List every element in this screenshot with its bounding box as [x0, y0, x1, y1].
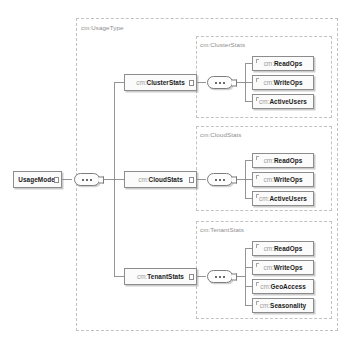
compositor-dot: [219, 179, 221, 181]
element-name-seasonality: Seasonality: [270, 302, 306, 309]
group-label-usage-type: cm:UsageType: [81, 24, 123, 31]
group-label-cloud-stats: cm:CloudStats: [200, 131, 242, 138]
compositor-dot: [223, 276, 225, 278]
element-node-cluster-stats[interactable]: cm: ClusterStats: [124, 74, 197, 91]
element-name-read-ops: ReadOps: [274, 245, 302, 252]
element-node-cluster-write-ops[interactable]: cm: WriteOps: [252, 75, 314, 90]
sequence-compositor-icon-cloud-stats[interactable]: [207, 173, 233, 186]
element-node-cluster-read-ops[interactable]: cm: ReadOps: [252, 56, 314, 71]
expand-tab-cloud-stats[interactable]: [189, 177, 194, 183]
namespace-prefix: cm:: [264, 264, 274, 271]
namespace-prefix: cm:: [259, 195, 269, 202]
compositor-dot: [90, 179, 92, 181]
group-label-cluster-stats: cm:ClusterStats: [200, 41, 245, 48]
element-node-tenant-geo-access[interactable]: cm: GeoAccess: [252, 279, 314, 294]
element-name-write-ops: WriteOps: [274, 264, 303, 271]
sequence-compositor-icon-tenant-stats[interactable]: [207, 270, 233, 283]
compositor-dot: [215, 276, 217, 278]
occurrence-indicator-icon: [256, 282, 259, 286]
element-node-cloud-write-ops[interactable]: cm: WriteOps: [252, 172, 314, 187]
element-name-tenant-stats: TenantStats: [147, 273, 184, 280]
compositor-dot: [219, 276, 221, 278]
element-node-cluster-active-users[interactable]: cm: ActiveUsers: [252, 94, 314, 109]
expand-tab-usage-model[interactable]: [54, 177, 59, 183]
namespace-prefix: cm:: [264, 157, 274, 164]
occurrence-indicator-icon: [256, 244, 259, 248]
element-node-cloud-stats[interactable]: cm: CloudStats: [124, 171, 197, 188]
element-name-geo-access: GeoAccess: [271, 283, 306, 290]
compositor-dot: [223, 179, 225, 181]
occurrence-indicator-icon: [256, 156, 259, 160]
occurrence-indicator-icon: [256, 301, 259, 305]
sequence-compositor-icon-root[interactable]: [74, 173, 100, 186]
element-name-write-ops: WriteOps: [274, 176, 303, 183]
namespace-prefix: cm:: [137, 273, 147, 280]
compositor-connector-tab: [232, 273, 237, 280]
namespace-prefix: cm:: [264, 245, 274, 252]
element-name-write-ops: WriteOps: [274, 79, 303, 86]
namespace-prefix: cm:: [264, 176, 274, 183]
element-name-read-ops: ReadOps: [274, 157, 302, 164]
compositor-connector-tab: [232, 79, 237, 86]
namespace-prefix: cm:: [260, 283, 270, 290]
element-node-cloud-active-users[interactable]: cm: ActiveUsers: [252, 191, 314, 206]
element-node-cloud-read-ops[interactable]: cm: ReadOps: [252, 153, 314, 168]
group-label-tenant-stats: cm:TenantStats: [200, 226, 244, 233]
element-name-active-users: ActiveUsers: [269, 98, 307, 105]
element-node-tenant-write-ops[interactable]: cm: WriteOps: [252, 260, 314, 275]
namespace-prefix: cm:: [260, 302, 270, 309]
compositor-dot: [86, 179, 88, 181]
occurrence-indicator-icon: [256, 194, 259, 198]
compositor-connector-tab: [232, 176, 237, 183]
element-node-tenant-stats[interactable]: cm: TenantStats: [124, 268, 197, 285]
compositor-dot: [82, 179, 84, 181]
element-name-cloud-stats: CloudStats: [149, 176, 183, 183]
element-node-usage-model[interactable]: UsageModel: [13, 171, 62, 188]
namespace-prefix: cm:: [264, 60, 274, 67]
sequence-compositor-icon-cluster-stats[interactable]: [207, 76, 233, 89]
namespace-prefix: cm:: [138, 176, 148, 183]
element-name-cluster-stats: ClusterStats: [147, 79, 185, 86]
element-name-usage-model: UsageModel: [18, 176, 57, 183]
compositor-connector-tab: [99, 176, 104, 183]
compositor-dot: [215, 82, 217, 84]
compositor-dot: [215, 179, 217, 181]
occurrence-indicator-icon: [256, 59, 259, 63]
namespace-prefix: cm:: [264, 79, 274, 86]
schema-diagram-canvas: cm:UsageType cm:ClusterStats cm:CloudSta…: [0, 0, 347, 346]
expand-tab-tenant-stats[interactable]: [189, 274, 194, 280]
element-node-tenant-read-ops[interactable]: cm: ReadOps: [252, 241, 314, 256]
element-name-read-ops: ReadOps: [274, 60, 302, 67]
compositor-dot: [219, 82, 221, 84]
element-node-tenant-seasonality[interactable]: cm: Seasonality: [252, 298, 314, 313]
namespace-prefix: cm:: [136, 79, 146, 86]
element-name-active-users: ActiveUsers: [269, 195, 307, 202]
compositor-dot: [223, 82, 225, 84]
occurrence-indicator-icon: [256, 97, 259, 101]
occurrence-indicator-icon: [256, 175, 259, 179]
occurrence-indicator-icon: [256, 263, 259, 267]
occurrence-indicator-icon: [256, 78, 259, 82]
expand-tab-cluster-stats[interactable]: [189, 80, 194, 86]
namespace-prefix: cm:: [259, 98, 269, 105]
